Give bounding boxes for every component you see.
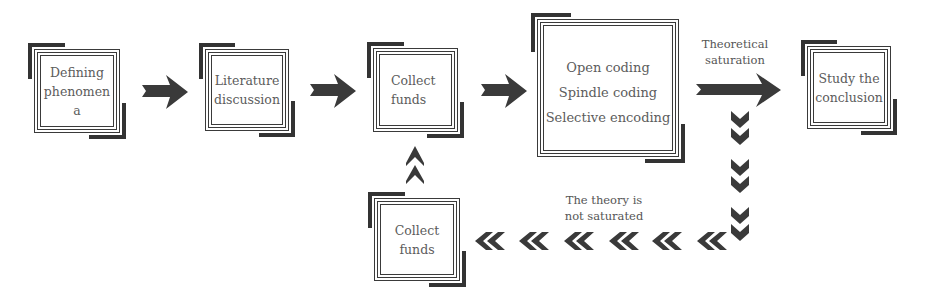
- label-line: Open coding: [566, 55, 649, 80]
- arrow-right-icon: [142, 75, 188, 109]
- node-study-conclusion: Study the conclusion: [801, 40, 897, 135]
- not-saturated-label: The theory is not saturated: [559, 192, 649, 224]
- label-line: phenomen: [44, 82, 110, 101]
- chevron-down-icon: [731, 159, 749, 195]
- chevron-left-icon: [519, 232, 549, 250]
- node-collect-funds: Collect funds: [367, 42, 464, 138]
- label-line: Theoretical: [700, 36, 770, 52]
- label-line: Study the: [818, 69, 879, 88]
- chevron-left-icon: [652, 232, 682, 250]
- chevron-left-icon: [697, 232, 727, 250]
- chevron-left-icon: [475, 232, 505, 250]
- node-collect-funds-bottom: Collect funds: [368, 192, 466, 287]
- label-line: Literature: [215, 71, 280, 90]
- node-label: Literature discussion: [211, 55, 283, 125]
- chevron-down-icon: [731, 207, 749, 243]
- label-line: The theory is: [559, 192, 649, 208]
- arrow-right-long-icon: [696, 73, 781, 107]
- node-label: Open coding Spindle coding Selective enc…: [543, 25, 673, 151]
- node-label: Study the conclusion: [813, 52, 885, 123]
- arrow-right-icon: [481, 74, 527, 108]
- label-line: discussion: [214, 90, 280, 109]
- chevron-left-icon: [564, 232, 594, 250]
- node-label: Collect funds: [380, 204, 454, 275]
- label-line: not saturated: [559, 208, 649, 224]
- label-line: saturation: [700, 52, 770, 68]
- node-literature-discussion: Literature discussion: [199, 43, 295, 137]
- node-defining-phenomena: Defining phenomen a: [28, 43, 126, 139]
- saturation-label: Theoretical saturation: [700, 36, 770, 68]
- chevron-left-icon: [609, 232, 639, 250]
- chevron-up-icon: [406, 146, 424, 184]
- arrow-right-icon: [310, 74, 356, 108]
- label-line: funds: [391, 90, 426, 109]
- node-label: Defining phenomen a: [40, 55, 114, 127]
- label-line: Collect: [391, 71, 436, 90]
- label-line: Selective encoding: [546, 105, 671, 130]
- label-line: Spindle coding: [559, 80, 657, 105]
- node-coding: Open coding Spindle coding Selective enc…: [531, 13, 685, 163]
- node-label: Collect funds: [379, 54, 452, 126]
- label-line: a: [73, 101, 80, 120]
- label-line: Defining: [50, 63, 104, 82]
- label-line: conclusion: [815, 88, 883, 107]
- label-line: funds: [399, 240, 434, 259]
- label-line: Collect: [395, 221, 440, 240]
- chevron-down-icon: [731, 111, 749, 147]
